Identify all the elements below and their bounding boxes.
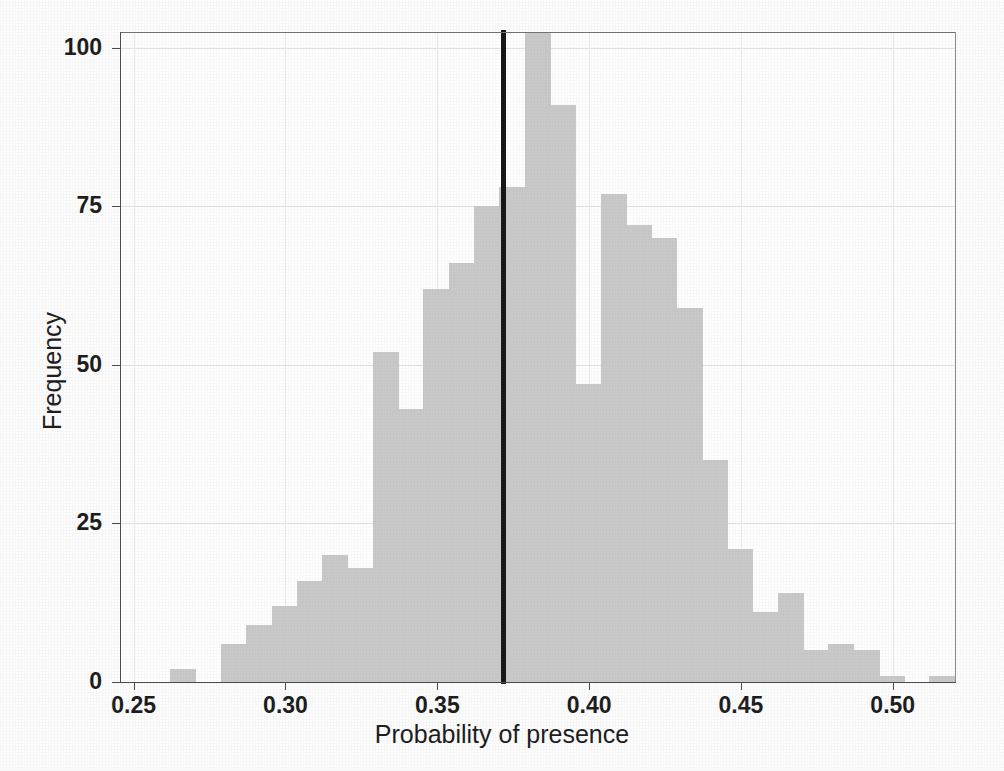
y-axis-tick-label: 75 xyxy=(0,194,102,217)
histogram-bar xyxy=(651,238,677,682)
histogram-bar xyxy=(727,549,753,682)
observed-value-line xyxy=(501,30,506,684)
x-axis-tick xyxy=(285,683,286,690)
y-axis-tick xyxy=(112,48,120,49)
x-axis-line xyxy=(120,682,956,683)
y-axis-tick xyxy=(112,365,120,366)
histogram-bar xyxy=(322,555,348,682)
histogram-bar xyxy=(550,105,576,682)
histogram-bar xyxy=(297,581,323,682)
histogram-bar xyxy=(398,409,424,682)
x-axis-tick-label: 0.25 xyxy=(111,694,156,717)
y-axis-tick xyxy=(112,523,120,524)
x-axis-tick-label: 0.45 xyxy=(719,694,764,717)
x-axis-tick-label: 0.40 xyxy=(567,694,612,717)
x-axis-tick xyxy=(589,683,590,690)
y-axis-tick-label: 100 xyxy=(0,36,102,59)
histogram-bar xyxy=(778,593,804,682)
histogram-bar xyxy=(702,460,728,682)
histogram-bar xyxy=(449,263,475,682)
histogram-bar xyxy=(677,308,703,682)
y-axis-title: Frequency xyxy=(40,312,65,430)
x-axis-tick xyxy=(134,683,135,690)
plot-frame-top xyxy=(120,32,956,33)
y-axis-line xyxy=(120,32,121,683)
histogram-bar xyxy=(525,32,551,682)
histogram-bar xyxy=(347,568,373,682)
histogram-bar xyxy=(601,194,627,682)
histogram-bar xyxy=(373,352,399,682)
y-axis-tick xyxy=(112,206,120,207)
x-axis-tick xyxy=(437,683,438,690)
x-axis-tick xyxy=(741,683,742,690)
histogram-bar xyxy=(474,206,500,682)
x-axis-tick-label: 0.35 xyxy=(415,694,460,717)
x-axis-tick-label: 0.50 xyxy=(870,694,915,717)
histogram-bar xyxy=(221,644,247,682)
plot-frame-right xyxy=(955,32,956,683)
x-axis-tick xyxy=(893,683,894,690)
histogram-bars xyxy=(120,32,955,682)
y-axis-tick-label: 25 xyxy=(0,511,102,534)
y-axis-tick-label: 0 xyxy=(0,670,102,693)
x-axis-tick-label: 0.30 xyxy=(263,694,308,717)
histogram-bar xyxy=(575,384,601,682)
y-axis-tick xyxy=(112,682,120,683)
histogram-bar xyxy=(170,669,196,682)
chart-canvas: 0255075100 0.250.300.350.400.450.50 Freq… xyxy=(0,0,1004,771)
histogram-bar xyxy=(423,289,449,682)
x-axis-title: Probability of presence xyxy=(0,722,1004,747)
histogram-bar xyxy=(752,612,778,682)
histogram-bar xyxy=(626,225,652,682)
histogram-bar xyxy=(272,606,298,682)
histogram-bar xyxy=(828,644,854,682)
histogram-bar xyxy=(803,650,829,682)
histogram-bar xyxy=(246,625,272,682)
histogram-bar xyxy=(854,650,880,682)
